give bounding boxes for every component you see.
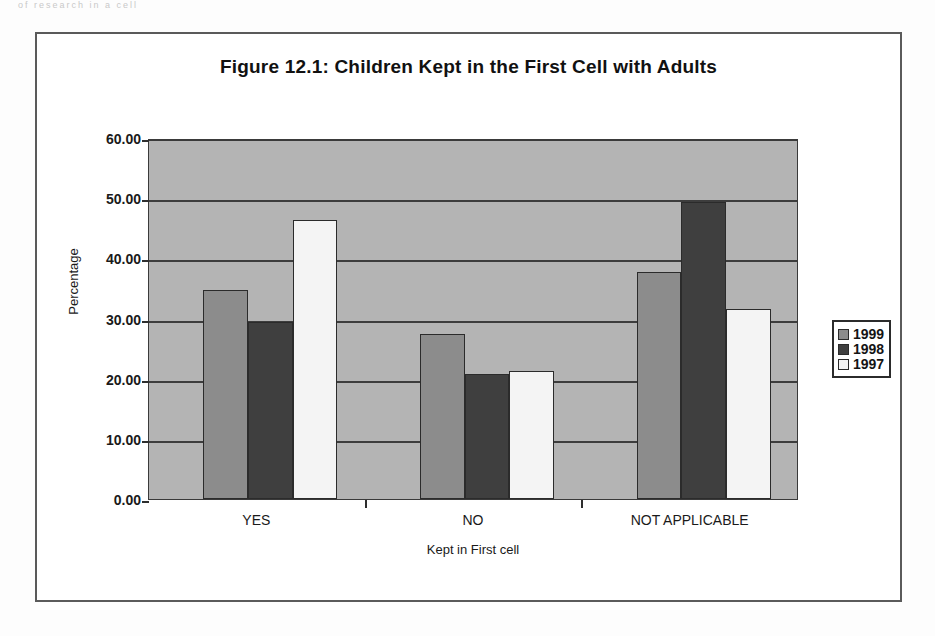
scanned-page: of research in a cell Figure 12.1: Child… xyxy=(0,0,935,636)
legend-swatch-icon xyxy=(838,344,849,355)
plot-area xyxy=(148,139,798,500)
y-axis-tick xyxy=(142,200,149,202)
y-axis-tick xyxy=(142,321,149,323)
bar-1997-no xyxy=(509,371,554,499)
x-axis-tick xyxy=(365,500,367,508)
y-axis-tick-label: 20.00 xyxy=(71,372,141,388)
bar-1997-not-applicable xyxy=(726,309,771,499)
x-axis-tick xyxy=(581,500,583,508)
chart-title: Figure 12.1: Children Kept in the First … xyxy=(37,56,900,78)
legend-item-1999: 1999 xyxy=(838,327,884,341)
y-axis-tick-label: 30.00 xyxy=(71,312,141,328)
bar-1998-not-applicable xyxy=(681,202,726,499)
y-axis-tick xyxy=(142,441,149,443)
bar-1997-yes xyxy=(293,220,338,499)
page-artifact-text: of research in a cell xyxy=(0,0,935,26)
x-axis-tick-label: NO xyxy=(463,512,484,528)
x-axis-title: Kept in First cell xyxy=(148,542,798,557)
y-axis-tick-label: 10.00 xyxy=(71,432,141,448)
legend-item-1998: 1998 xyxy=(838,342,884,356)
y-axis-tick xyxy=(142,501,149,503)
bar-1998-yes xyxy=(248,322,293,499)
legend-item-1997: 1997 xyxy=(838,357,884,371)
legend-swatch-icon xyxy=(838,359,849,370)
y-axis-tick-label: 40.00 xyxy=(71,251,141,267)
y-axis-tick-label: 50.00 xyxy=(71,191,141,207)
y-axis-tick xyxy=(142,260,149,262)
y-axis-tick-label: 0.00 xyxy=(71,492,141,508)
x-axis-tick-label: NOT APPLICABLE xyxy=(631,512,749,528)
y-axis-tick-label: 60.00 xyxy=(71,131,141,147)
y-axis-tick xyxy=(142,381,149,383)
figure-frame: Figure 12.1: Children Kept in the First … xyxy=(35,32,902,602)
bar-1998-no xyxy=(465,374,510,499)
legend-label: 1997 xyxy=(853,357,884,371)
chart-legend: 199919981997 xyxy=(832,320,891,378)
legend-label: 1998 xyxy=(853,342,884,356)
bar-1999-not-applicable xyxy=(637,272,682,499)
y-axis-tick-labels: 0.0010.0020.0030.0040.0050.0060.00 xyxy=(65,139,141,500)
bar-1999-no xyxy=(420,334,465,499)
legend-swatch-icon xyxy=(838,329,849,340)
legend-label: 1999 xyxy=(853,327,884,341)
bar-1999-yes xyxy=(203,290,248,499)
x-axis-tick-label: YES xyxy=(242,512,270,528)
y-axis-tick xyxy=(142,140,149,142)
